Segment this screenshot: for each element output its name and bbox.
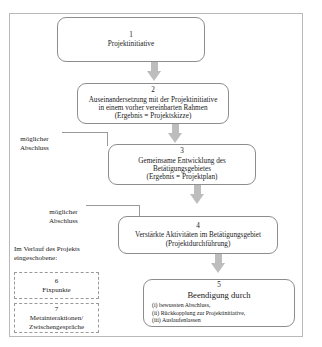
node-number: 5: [217, 281, 221, 289]
connector-horizontal: [62, 132, 108, 133]
node-number: 4: [196, 222, 200, 230]
process-node-2: 2 Auseinandersetzung mit der Projektinit…: [77, 83, 229, 124]
process-node-3: 3 Gemeinsame Entwicklung des Betätigungs…: [108, 144, 256, 185]
node-number: 2: [151, 86, 155, 94]
arrow-down-icon-3: [190, 185, 205, 204]
node-label: Projektinitiative: [108, 40, 154, 48]
arrow-down-icon-1: [147, 62, 162, 81]
node-label: Verstärkte Aktivitäten im Betätigungsgeb…: [135, 231, 261, 248]
flowchart-page: 1 Projektinitiative 2 Auseinandersetzung…: [0, 0, 322, 347]
process-node-5: 5 Beendigung durch (i) bewussten Abschlu…: [143, 279, 295, 327]
process-node-4: 4 Verstärkte Aktivitäten im Betätigungsg…: [118, 216, 278, 254]
arrow-down-icon-2: [168, 124, 183, 143]
process-node-1: 1 Projektinitiative: [57, 17, 205, 62]
node-label: Auseinandersetzung mit der Projektinitia…: [89, 96, 218, 121]
node-heading: Beendigung durch: [187, 290, 250, 300]
node-list: (i) bewussten Abschluss, (ii) Rückkopplu…: [144, 302, 294, 325]
connector-moeglicher-abschluss-1: [62, 132, 108, 146]
arrow-head: [147, 71, 161, 81]
arrow-head: [211, 263, 225, 273]
node-label: Metainteraktionen/ Zwischengespräche: [29, 314, 84, 331]
node-label: Gemeinsame Entwicklung des Betätigungsge…: [138, 157, 225, 182]
process-node-7: 7 Metainteraktionen/ Zwischengespräche: [14, 303, 99, 333]
process-node-6: 6 Fixpunkte: [14, 272, 99, 299]
connector-vertical: [107, 132, 108, 146]
node-number: 7: [55, 305, 59, 313]
node-number: 3: [180, 147, 184, 155]
arrow-down-icon-4: [211, 254, 226, 273]
arrow-head: [190, 194, 204, 204]
intro-note: Im Verlauf des Projekts eingeschobene:: [14, 245, 80, 263]
side-label-moeglicher-abschluss-1: möglicher Abschluss: [20, 135, 49, 153]
node-label: Fixpunkte: [42, 286, 70, 294]
arrow-head: [168, 133, 182, 143]
side-label-moeglicher-abschluss-2: möglicher Abschluss: [49, 208, 78, 226]
node-number: 6: [55, 277, 59, 285]
node-number: 1: [129, 31, 133, 39]
connector-horizontal: [86, 205, 140, 206]
